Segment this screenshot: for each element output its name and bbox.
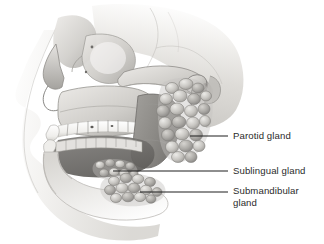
submandibular-gland xyxy=(100,173,165,206)
parotid-gland xyxy=(157,78,213,163)
label-submandibular-gland: Submandibular gland xyxy=(233,185,299,208)
label-sublingual-gland: Sublingual gland xyxy=(233,165,306,177)
salivary-gland-illustration: Parotid gland Sublingual gland Submandib… xyxy=(0,0,324,244)
label-parotid-gland: Parotid gland xyxy=(233,130,291,142)
